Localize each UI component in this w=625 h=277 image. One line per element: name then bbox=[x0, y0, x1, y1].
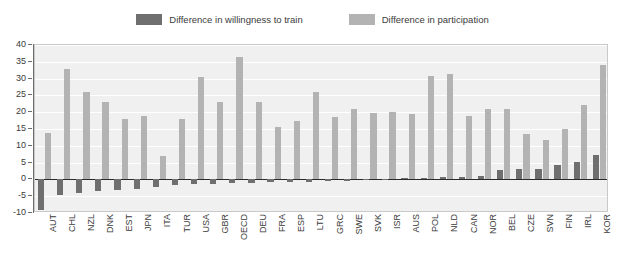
x-tick-label: BEL bbox=[507, 214, 517, 231]
bar-participation bbox=[600, 65, 606, 179]
bar-willingness bbox=[229, 179, 235, 183]
bar-group bbox=[303, 45, 322, 211]
bar-participation bbox=[294, 121, 300, 180]
legend-item-participation: Difference in participation bbox=[349, 14, 489, 25]
bar-willingness bbox=[287, 179, 293, 182]
bar-group bbox=[35, 45, 54, 211]
bar-participation bbox=[122, 119, 128, 179]
bar-participation bbox=[83, 92, 89, 179]
bar-participation bbox=[562, 129, 568, 179]
bar-participation bbox=[141, 116, 147, 180]
y-tick-mark bbox=[28, 195, 32, 196]
bar-participation bbox=[447, 74, 453, 180]
bar-group bbox=[360, 45, 379, 211]
bar-willingness bbox=[114, 179, 120, 190]
legend-label-participation: Difference in participation bbox=[382, 14, 489, 25]
bar-willingness bbox=[516, 169, 522, 179]
bar-willingness bbox=[574, 162, 580, 179]
y-tick-mark bbox=[28, 78, 32, 79]
x-tick-label: GRC bbox=[335, 214, 345, 234]
bar-group bbox=[188, 45, 207, 211]
legend-swatch-willingness bbox=[136, 14, 162, 25]
x-tick-label: JPN bbox=[143, 214, 153, 231]
x-tick-label: CHL bbox=[67, 214, 77, 232]
legend-item-willingness: Difference in willingness to train bbox=[136, 14, 302, 25]
x-tick-label: IRL bbox=[583, 214, 593, 228]
x-axis-labels: AUTCHLNZLDNKESTJPNITATURUSAGBROECDDEUFRA… bbox=[34, 214, 608, 274]
chart-container: Difference in willingness to train Diffe… bbox=[0, 0, 625, 277]
bar-group bbox=[73, 45, 92, 211]
bar-willingness bbox=[134, 179, 140, 189]
bar-willingness bbox=[306, 179, 312, 181]
bar-willingness bbox=[248, 179, 254, 182]
bar-group bbox=[226, 45, 245, 211]
y-tick-label: 15 bbox=[16, 123, 26, 133]
bar-group bbox=[322, 45, 341, 211]
x-tick-label: GBR bbox=[220, 214, 230, 234]
bar-willingness bbox=[344, 179, 350, 180]
bar-participation bbox=[485, 109, 491, 180]
bar-willingness bbox=[267, 179, 273, 182]
bar-willingness bbox=[421, 178, 427, 180]
bar-willingness bbox=[76, 179, 82, 192]
bar-group bbox=[456, 45, 475, 211]
y-tick-label: 5 bbox=[21, 157, 26, 167]
y-tick-mark bbox=[28, 162, 32, 163]
bar-willingness bbox=[535, 169, 541, 180]
x-tick-label: NZL bbox=[86, 214, 96, 231]
bar-willingness bbox=[401, 178, 407, 179]
x-tick-label: EST bbox=[124, 214, 134, 232]
bar-participation bbox=[160, 156, 166, 180]
bar-participation bbox=[409, 114, 415, 180]
y-tick-label: 20 bbox=[16, 106, 26, 116]
bar-willingness bbox=[38, 179, 44, 209]
bar-group bbox=[150, 45, 169, 211]
y-tick-mark bbox=[28, 61, 32, 62]
bar-participation bbox=[543, 140, 549, 180]
legend-label-willingness: Difference in willingness to train bbox=[169, 14, 302, 25]
x-tick-label: NLD bbox=[449, 214, 459, 232]
bar-participation bbox=[313, 92, 319, 179]
bar-group bbox=[590, 45, 609, 211]
bar-participation bbox=[102, 102, 108, 179]
x-tick-label: SWE bbox=[354, 214, 364, 235]
x-tick-label: CZE bbox=[526, 214, 536, 232]
bar-group bbox=[284, 45, 303, 211]
bar-participation bbox=[389, 112, 395, 179]
x-tick-label: TUR bbox=[182, 214, 192, 233]
x-tick-label: ESP bbox=[296, 214, 306, 232]
y-tick-mark bbox=[28, 178, 32, 179]
bar-group bbox=[112, 45, 131, 211]
y-tick-mark bbox=[28, 128, 32, 129]
bar-group bbox=[399, 45, 418, 211]
bar-group bbox=[513, 45, 532, 211]
y-tick-mark bbox=[28, 94, 32, 95]
x-tick-label: SVK bbox=[373, 214, 383, 232]
bar-willingness bbox=[382, 179, 388, 180]
x-tick-label: SVN bbox=[545, 214, 555, 233]
y-tick-label: 25 bbox=[16, 89, 26, 99]
y-tick-label: -10 bbox=[13, 207, 26, 217]
y-tick-mark bbox=[28, 111, 32, 112]
bar-participation bbox=[581, 105, 587, 179]
bar-group bbox=[475, 45, 494, 211]
x-tick-label: ITA bbox=[162, 214, 172, 227]
bar-participation bbox=[428, 76, 434, 179]
bar-group bbox=[169, 45, 188, 211]
y-tick-label: -5 bbox=[18, 190, 26, 200]
x-tick-label: ISR bbox=[392, 214, 402, 229]
bar-group bbox=[245, 45, 264, 211]
bar-group bbox=[341, 45, 360, 211]
bar-group bbox=[418, 45, 437, 211]
bar-willingness bbox=[478, 176, 484, 179]
bar-group bbox=[552, 45, 571, 211]
bar-willingness bbox=[172, 179, 178, 184]
x-tick-label: KOR bbox=[602, 214, 612, 234]
bar-participation bbox=[236, 57, 242, 180]
y-tick-label: 40 bbox=[16, 39, 26, 49]
bar-participation bbox=[64, 69, 70, 180]
bar-group bbox=[265, 45, 284, 211]
bar-participation bbox=[275, 127, 281, 179]
bar-group bbox=[379, 45, 398, 211]
bar-participation bbox=[504, 109, 510, 180]
